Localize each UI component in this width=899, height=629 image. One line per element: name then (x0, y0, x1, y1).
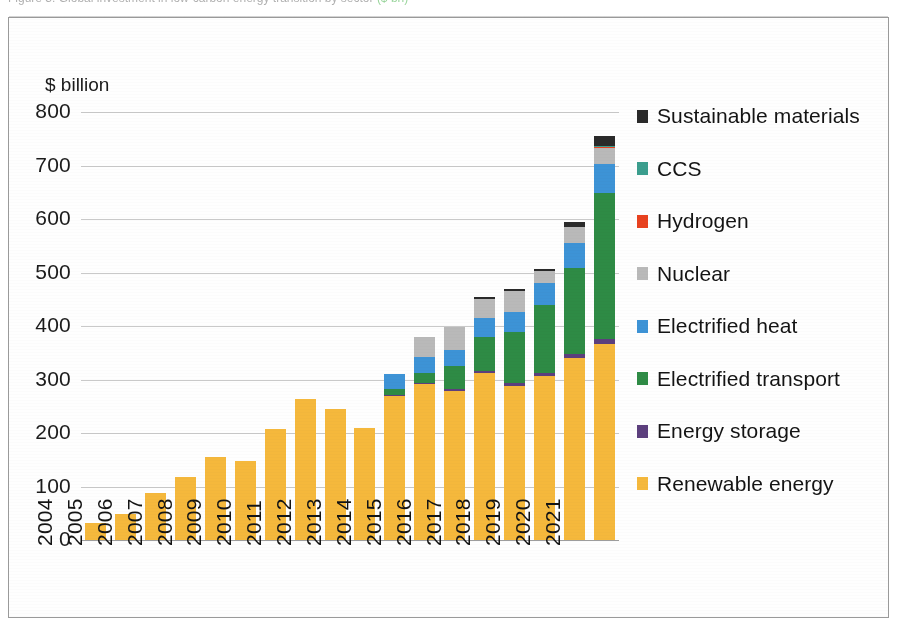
bar-segment-2020-sustainable-materials[interactable] (564, 222, 585, 226)
bar-segment-2018-electrified-transport[interactable] (504, 332, 525, 383)
bar-segment-2019-electrified-heat[interactable] (534, 283, 555, 304)
caption-prefix: Figure 3: (8, 0, 55, 5)
legend-item-nuclear[interactable]: Nuclear (637, 264, 730, 284)
bar-segment-2021-electrified-heat[interactable] (594, 164, 615, 192)
x-tick-2020: 2020 (511, 498, 535, 546)
bar-segment-2018-electrified-heat[interactable] (504, 312, 525, 332)
bar-segment-2018-nuclear[interactable] (504, 291, 525, 312)
legend-label: Electrified heat (657, 314, 798, 338)
x-axis: 2004200520062007200820092010201120122013… (9, 450, 547, 546)
y-axis-title: $ billion (45, 74, 109, 96)
bar-segment-2021-energy-storage[interactable] (594, 339, 615, 344)
bar-segment-2021-ccs[interactable] (594, 146, 615, 147)
bar-segment-2020-electrified-transport[interactable] (564, 268, 585, 354)
caption-suffix: ($ bn) (377, 0, 408, 5)
bar-segment-2019-nuclear[interactable] (534, 271, 555, 283)
bar-segment-2021-electrified-transport[interactable] (594, 193, 615, 339)
x-tick-2010: 2010 (212, 498, 236, 546)
bar-segment-2015-nuclear[interactable] (414, 337, 435, 356)
x-tick-2019: 2019 (481, 498, 505, 546)
bar-segment-2014-electrified-heat[interactable] (384, 374, 405, 388)
y-tick-300: 300 (9, 367, 71, 391)
bar-segment-2020-renewable-energy[interactable] (564, 358, 585, 540)
legend-label: CCS (657, 157, 702, 181)
bar-segment-2018-energy-storage[interactable] (504, 383, 525, 386)
x-tick-2013: 2013 (302, 498, 326, 546)
x-tick-2017: 2017 (422, 498, 446, 546)
x-tick-2007: 2007 (123, 498, 147, 546)
bar-segment-2020-energy-storage[interactable] (564, 354, 585, 358)
y-tick-800: 800 (9, 99, 71, 123)
bar-segment-2014-electrified-transport[interactable] (384, 389, 405, 395)
bar-group-2020[interactable] (564, 112, 585, 540)
legend-item-hydrogen[interactable]: Hydrogen (637, 211, 749, 231)
legend-item-sustainable-materials[interactable]: Sustainable materials (637, 106, 860, 126)
bar-segment-2020-nuclear[interactable] (564, 227, 585, 244)
bar-segment-2021-nuclear[interactable] (594, 148, 615, 165)
bar-segment-2021-sustainable-materials[interactable] (594, 136, 615, 146)
y-tick-700: 700 (9, 153, 71, 177)
legend-item-ccs[interactable]: CCS (637, 159, 702, 179)
legend-swatch-icon (637, 372, 648, 385)
caption-body: Global investment in low-carbon energy t… (59, 0, 374, 5)
bar-segment-2021-renewable-energy[interactable] (594, 344, 615, 540)
bar-segment-2016-energy-storage[interactable] (444, 389, 465, 391)
y-tick-600: 600 (9, 206, 71, 230)
bar-group-2021[interactable] (594, 112, 615, 540)
bar-segment-2017-sustainable-materials[interactable] (474, 297, 495, 299)
legend-label: Renewable energy (657, 472, 834, 496)
figure-caption-strip: Figure 3: Global investment in low-carbo… (0, 0, 899, 13)
legend-label: Electrified transport (657, 367, 840, 391)
bar-segment-2015-electrified-transport[interactable] (414, 373, 435, 384)
x-tick-2012: 2012 (272, 498, 296, 546)
x-tick-2016: 2016 (392, 498, 416, 546)
bar-segment-2018-sustainable-materials[interactable] (504, 289, 525, 291)
x-tick-2005: 2005 (63, 498, 87, 546)
legend-label: Hydrogen (657, 209, 749, 233)
x-tick-2008: 2008 (153, 498, 177, 546)
bar-segment-2019-energy-storage[interactable] (534, 373, 555, 376)
legend-item-energy-storage[interactable]: Energy storage (637, 421, 801, 441)
legend-swatch-icon (637, 320, 648, 333)
legend-swatch-icon (637, 477, 648, 490)
y-tick-500: 500 (9, 260, 71, 284)
legend-item-electrified-heat[interactable]: Electrified heat (637, 316, 798, 336)
bar-segment-2019-electrified-transport[interactable] (534, 305, 555, 373)
x-tick-2014: 2014 (332, 498, 356, 546)
bar-segment-2017-electrified-transport[interactable] (474, 337, 495, 371)
x-tick-2004: 2004 (33, 498, 57, 546)
legend-label: Energy storage (657, 419, 801, 443)
y-tick-200: 200 (9, 420, 71, 444)
bar-segment-2019-sustainable-materials[interactable] (534, 269, 555, 272)
legend-swatch-icon (637, 215, 648, 228)
bar-segment-2016-nuclear[interactable] (444, 327, 465, 350)
x-tick-2011: 2011 (242, 500, 266, 546)
x-tick-2018: 2018 (451, 498, 475, 546)
legend-label: Sustainable materials (657, 104, 860, 128)
x-tick-2006: 2006 (93, 498, 117, 546)
legend-swatch-icon (637, 110, 648, 123)
legend-swatch-icon (637, 267, 648, 280)
legend-swatch-icon (637, 425, 648, 438)
bar-segment-2016-electrified-heat[interactable] (444, 350, 465, 367)
legend-item-renewable-energy[interactable]: Renewable energy (637, 474, 834, 494)
bar-segment-2020-electrified-heat[interactable] (564, 243, 585, 268)
legend-item-electrified-transport[interactable]: Electrified transport (637, 369, 840, 389)
x-tick-2015: 2015 (362, 498, 386, 546)
bar-segment-2015-electrified-heat[interactable] (414, 357, 435, 373)
legend-label: Nuclear (657, 262, 730, 286)
bar-segment-2016-electrified-transport[interactable] (444, 366, 465, 389)
bar-segment-2017-electrified-heat[interactable] (474, 318, 495, 337)
figure-caption-text: Figure 3: Global investment in low-carbo… (8, 0, 408, 5)
x-tick-2009: 2009 (182, 498, 206, 546)
y-tick-400: 400 (9, 313, 71, 337)
legend-swatch-icon (637, 162, 648, 175)
bar-segment-2017-nuclear[interactable] (474, 299, 495, 318)
bar-segment-2017-energy-storage[interactable] (474, 371, 495, 373)
bar-segment-2015-energy-storage[interactable] (414, 383, 435, 384)
figure-frame: $ billion 0100200300400500600700800 2004… (8, 17, 889, 618)
x-tick-2021: 2021 (541, 498, 565, 546)
